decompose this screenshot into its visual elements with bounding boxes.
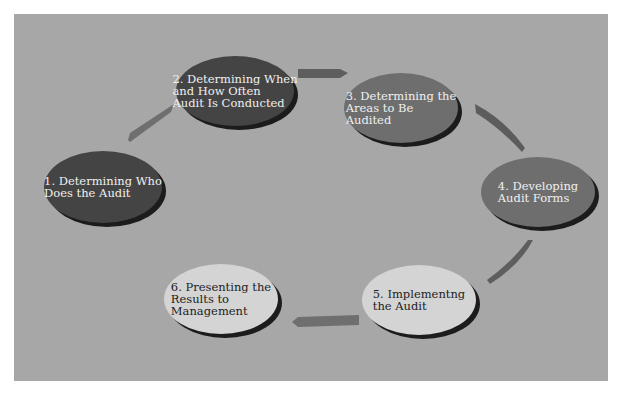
step-3-label: 3. Determining the Areas to Be Audited <box>346 90 457 126</box>
step-4-node: 4. Developing Audit Forms <box>481 157 595 227</box>
arrow-1-to-2 <box>128 104 174 142</box>
step-1-label: 1. Determining Who Does the Audit <box>44 175 162 199</box>
step-6-label: 6. Presenting the Results to Management <box>171 281 271 317</box>
step-5-label: 5. Implementng the Audit <box>373 288 465 312</box>
arrow-5-to-6 <box>292 315 359 327</box>
step-4-label: 4. Developing Audit Forms <box>498 180 578 204</box>
arrow-3-to-4 <box>475 104 525 152</box>
step-2-label: 2. Determining When and How Often Audit … <box>172 73 297 109</box>
step-1-node: 1. Determining Who Does the Audit <box>44 151 162 223</box>
arrow-4-to-5 <box>487 240 533 284</box>
step-3-node: 3. Determining the Areas to Be Audited <box>344 73 458 143</box>
arrow-2-to-3 <box>298 69 348 78</box>
step-2-node: 2. Determining When and How Often Audit … <box>176 56 294 126</box>
step-5-node: 5. Implementng the Audit <box>362 265 476 335</box>
step-6-node: 6. Presenting the Results to Management <box>164 264 278 334</box>
